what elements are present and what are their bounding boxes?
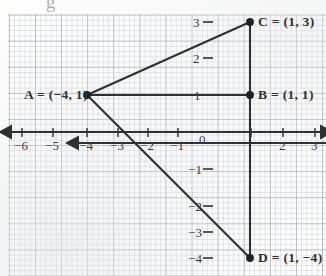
x-tick-label--4: −4 <box>79 139 93 152</box>
point-label-A: A = (−4, 1) <box>24 88 88 102</box>
segment-AC <box>87 22 250 95</box>
x-tick-label--5: −5 <box>45 139 59 152</box>
y-tick-label--1: −1 <box>188 163 202 176</box>
y-tick-label--3: −3 <box>188 226 202 239</box>
point-label-C: C = (1, 3) <box>258 15 314 29</box>
origin-label-0: 0 <box>199 133 206 146</box>
x-tick-label-2: 2 <box>279 139 286 152</box>
x-tick-label--1: −1 <box>170 139 184 152</box>
y-tick-label-1: 1 <box>194 89 201 102</box>
segment-AD <box>87 95 250 258</box>
point-C <box>246 18 254 26</box>
figure-canvas: g <box>0 0 326 276</box>
point-label-D: D = (1, −4) <box>258 251 322 265</box>
point-D <box>246 254 254 262</box>
y-tick-label-2: 2 <box>193 52 200 65</box>
x-tick-label--3: −3 <box>110 139 124 152</box>
y-tick-label--2: −2 <box>188 200 202 213</box>
x-tick-label-3: 3 <box>311 139 318 152</box>
x-tick-label--6: −6 <box>14 139 28 152</box>
point-label-B: B = (1, 1) <box>258 88 314 102</box>
y-tick-label--4: −4 <box>188 252 202 265</box>
point-B <box>246 91 254 99</box>
x-tick-label--2: −2 <box>140 139 154 152</box>
y-tick-label-3: 3 <box>193 16 200 29</box>
